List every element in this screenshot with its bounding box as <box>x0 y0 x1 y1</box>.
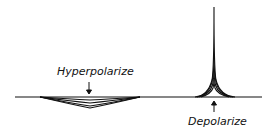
depolarize-traces <box>195 7 235 97</box>
depolarize-label: Depolarize <box>188 115 247 128</box>
hyperpolarize-label: Hyperpolarize <box>57 65 134 78</box>
potential-traces <box>0 0 276 131</box>
hyperpolarize-traces <box>15 97 262 108</box>
